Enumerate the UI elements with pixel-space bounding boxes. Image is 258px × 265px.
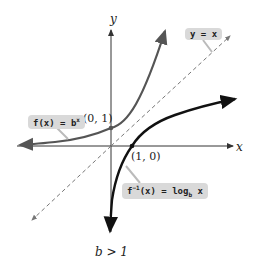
exponential-curve xyxy=(111,31,165,128)
log-callout-sup: −1 xyxy=(132,184,139,191)
condition-label: b > 1 xyxy=(95,245,128,259)
point-label-log: (1, 0) xyxy=(131,150,161,163)
identity-callout: y = x xyxy=(185,28,222,40)
identity-callout-leader xyxy=(203,40,212,52)
x-axis-label: x xyxy=(236,140,243,154)
logarithmic-curve xyxy=(132,99,235,146)
exp-callout-sup: x xyxy=(76,116,80,123)
log-callout-leader xyxy=(126,166,140,183)
exp-callout: f(x) = bx xyxy=(28,115,85,129)
point-exp-intercept xyxy=(109,126,114,131)
exp-callout-base: f(x) = b xyxy=(33,118,76,128)
point-label-exp: (0, 1) xyxy=(83,112,113,125)
log-callout-tail: x xyxy=(192,186,203,196)
point-log-intercept xyxy=(130,144,135,149)
graph-stage: x y (0, 1) (1, 0) b > 1 y = x f(x) = bx … xyxy=(0,0,258,265)
log-callout-mid: (x) = log xyxy=(140,186,189,196)
identity-callout-text: y = x xyxy=(190,29,217,39)
identity-line-lower xyxy=(32,146,111,220)
log-callout: f−1(x) = logb x xyxy=(122,183,208,199)
identity-line xyxy=(111,36,230,146)
y-axis-label: y xyxy=(110,12,117,26)
